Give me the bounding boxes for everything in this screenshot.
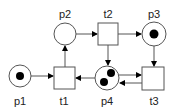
label-p3: p3 [148, 8, 160, 20]
label-p4: p4 [101, 95, 113, 107]
transition-t1[interactable] [54, 67, 75, 89]
token [16, 72, 24, 80]
place-p1[interactable] [9, 65, 31, 87]
label-p2: p2 [59, 8, 71, 20]
label-t2: t2 [103, 8, 112, 20]
place-p3[interactable] [142, 22, 166, 46]
transition-t3[interactable] [142, 67, 164, 90]
token [107, 69, 115, 77]
label-p1: p1 [14, 95, 26, 107]
place-p2[interactable] [54, 23, 76, 45]
label-t1: t1 [59, 95, 68, 107]
place-p4[interactable] [95, 66, 119, 90]
token [100, 78, 108, 86]
token [150, 30, 159, 39]
petri-net-diagram: p1 p2 p3 p4 t1 t2 t3 [0, 0, 175, 112]
label-t3: t3 [149, 95, 158, 107]
transition-t2[interactable] [98, 23, 118, 45]
